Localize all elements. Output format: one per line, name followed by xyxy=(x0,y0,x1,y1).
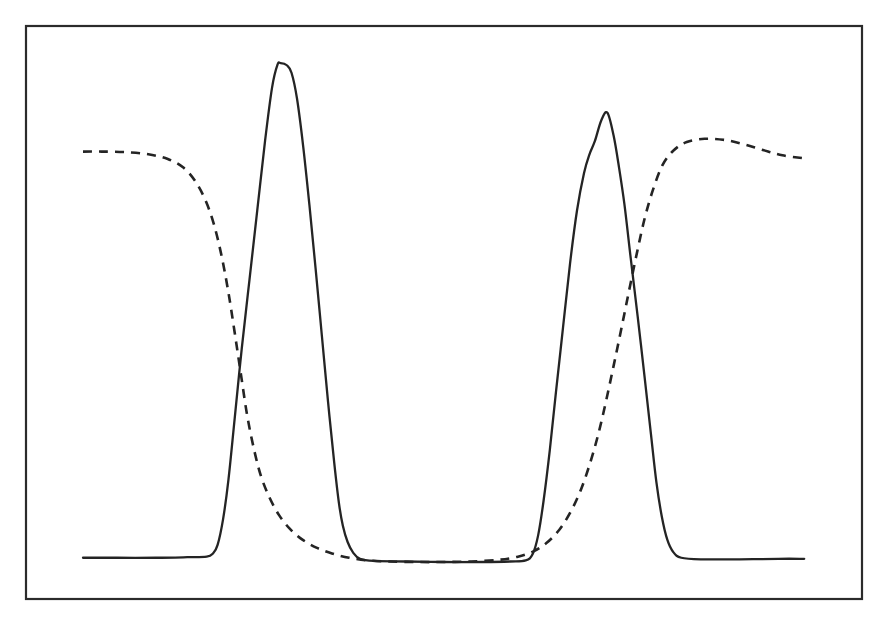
chart-canvas xyxy=(0,0,881,620)
figure-container xyxy=(0,0,881,620)
plot-background xyxy=(0,0,881,620)
